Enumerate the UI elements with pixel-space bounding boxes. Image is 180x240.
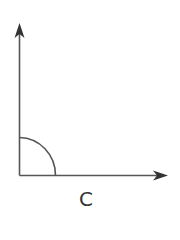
angle-arc: [20, 138, 56, 176]
vertical-ray: [15, 23, 25, 176]
horizontal-ray: [20, 171, 169, 181]
angle-label: C: [76, 188, 96, 210]
